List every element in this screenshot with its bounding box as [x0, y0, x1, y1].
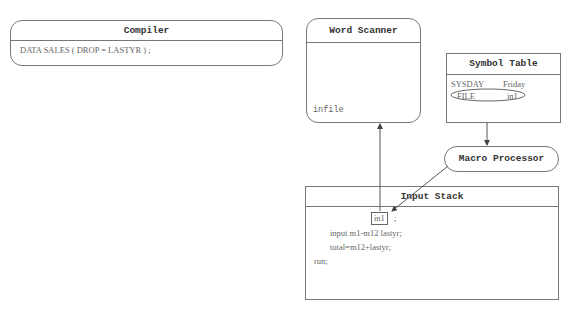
connector-arrows — [0, 0, 578, 312]
file-row-ellipse — [451, 89, 525, 101]
